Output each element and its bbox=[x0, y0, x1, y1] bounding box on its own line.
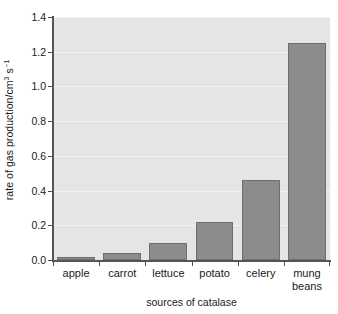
x-axis-tick-label-line: apple bbox=[63, 267, 90, 279]
x-axis-tick-mark bbox=[329, 261, 330, 266]
bar-mung-beans bbox=[288, 43, 326, 260]
y-axis-title-text: rate of gas production/cm3 s−1 bbox=[3, 60, 15, 200]
bar-celery bbox=[242, 180, 280, 260]
x-axis-tick-labels: applecarrotlettucepotatocelerymungbeans bbox=[53, 267, 330, 297]
x-axis-tick-label: lettuce bbox=[152, 267, 184, 280]
x-axis-tick-mark bbox=[192, 261, 193, 266]
x-axis-tick-label: carrot bbox=[108, 267, 136, 280]
y-axis-tick-label: 0.8 bbox=[18, 115, 46, 127]
y-axis-line bbox=[52, 16, 54, 261]
x-axis-tick-label-line: beans bbox=[292, 280, 322, 293]
y-axis-tick-label: 0.6 bbox=[18, 150, 46, 162]
x-axis-tick-label-line: potato bbox=[199, 267, 230, 279]
bar-chart-figure: rate of gas production/cm3 s−1 0.00.20.4… bbox=[0, 0, 338, 314]
x-axis-tick-label-line: carrot bbox=[108, 267, 136, 279]
y-axis-tick-label: 0.2 bbox=[18, 219, 46, 231]
y-axis-tick-labels: 0.00.20.40.60.81.01.21.4 bbox=[18, 17, 46, 260]
x-axis-tick-label-line: lettuce bbox=[152, 267, 184, 279]
bar-carrot bbox=[103, 253, 141, 260]
x-axis-tick-label: celery bbox=[246, 267, 275, 280]
x-axis-title: sources of catalase bbox=[53, 296, 330, 308]
x-axis-tick-label: mungbeans bbox=[292, 267, 322, 292]
bar-potato bbox=[196, 222, 234, 260]
y-axis-tick-label: 1.2 bbox=[18, 46, 46, 58]
x-axis-tick-mark bbox=[284, 261, 285, 266]
y-axis-title-sup-time: −1 bbox=[2, 60, 11, 68]
x-axis-tick-label-line: celery bbox=[246, 267, 275, 279]
x-axis-tick-label: potato bbox=[199, 267, 230, 280]
bar-lettuce bbox=[149, 243, 187, 260]
x-axis-tick-mark bbox=[99, 261, 100, 266]
x-axis-tick-marks bbox=[53, 261, 330, 266]
x-axis-tick-mark bbox=[53, 261, 54, 266]
y-axis-title: rate of gas production/cm3 s−1 bbox=[0, 0, 18, 260]
x-axis-tick-mark bbox=[238, 261, 239, 266]
y-axis-tick-label: 1.4 bbox=[18, 11, 46, 23]
x-axis-tick-mark bbox=[145, 261, 146, 266]
y-axis-tick-label: 1.0 bbox=[18, 80, 46, 92]
plot-area bbox=[53, 17, 330, 260]
y-axis-title-sup-volume: 3 bbox=[2, 76, 11, 80]
y-axis-tick-label: 0.0 bbox=[18, 254, 46, 266]
x-axis-tick-label: apple bbox=[63, 267, 90, 280]
x-axis-tick-label-line: mung bbox=[293, 267, 321, 279]
y-axis-tick-label: 0.4 bbox=[18, 185, 46, 197]
y-axis-title-mid: s bbox=[3, 68, 15, 76]
y-axis-title-base: rate of gas production/cm bbox=[3, 80, 15, 200]
bars-group bbox=[53, 17, 330, 260]
